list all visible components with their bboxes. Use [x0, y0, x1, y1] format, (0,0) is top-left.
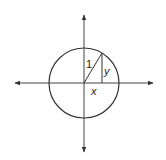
unit-circle-diagram: 1 y x [0, 0, 166, 160]
opposite-label: y [103, 65, 111, 77]
adjacent-label: x [90, 85, 97, 97]
hypotenuse-label: 1 [86, 58, 92, 70]
